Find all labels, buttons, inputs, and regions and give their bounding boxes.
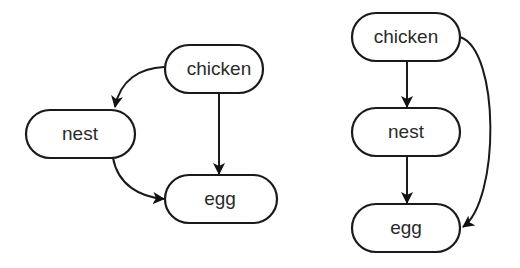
edge-left-nest-to-egg <box>113 158 164 199</box>
chicken-egg-diagrams: chicken nest egg chicken nest egg <box>0 0 520 268</box>
node-label: chicken <box>187 58 251 79</box>
node-left-egg: egg <box>165 175 277 223</box>
node-label: chicken <box>374 26 438 47</box>
node-right-nest: nest <box>352 108 460 156</box>
node-left-chicken: chicken <box>165 45 263 93</box>
node-label: nest <box>388 121 425 142</box>
node-right-chicken: chicken <box>352 13 460 61</box>
node-label: nest <box>62 123 99 144</box>
node-right-egg: egg <box>352 204 460 252</box>
right-graph: chicken nest egg <box>352 13 490 252</box>
left-graph: chicken nest egg <box>26 45 277 223</box>
edge-left-chicken-to-nest <box>115 67 164 107</box>
node-label: egg <box>204 188 236 209</box>
edge-right-chicken-to-egg <box>460 37 490 227</box>
node-label: egg <box>390 217 422 238</box>
node-left-nest: nest <box>26 110 135 158</box>
